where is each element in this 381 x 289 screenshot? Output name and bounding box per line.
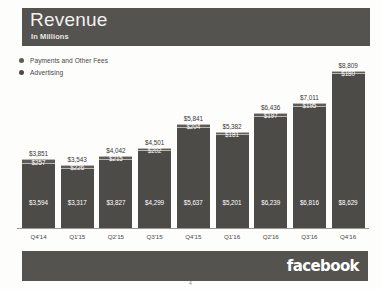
x-axis-tick-label: Q4'16 (326, 233, 371, 240)
footer-banner: facebook (22, 251, 368, 281)
bar-segment-label-payments: $257 (22, 158, 55, 165)
bar-group[interactable]: $8,629$180$8,809Q4'16 (332, 71, 365, 228)
bar-segment-payments[interactable]: $202 (138, 148, 171, 152)
bar-segment-label-advertising: $8,629 (332, 199, 365, 206)
bar-segment-label-advertising: $3,594 (22, 199, 55, 206)
bar-segment-label-advertising: $5,201 (216, 199, 249, 206)
bar-segment-payments[interactable]: $195 (293, 103, 326, 106)
bar-segment-label-advertising: $4,299 (138, 199, 171, 206)
bar-group[interactable]: $3,594$257$3,851Q4'14 (22, 159, 55, 228)
bar-group[interactable]: $6,239$197$6,436Q2'16 (254, 113, 287, 228)
bar-total-label: $5,382 (210, 123, 255, 130)
bar-segment-label-advertising: $6,816 (293, 199, 326, 206)
bar-total-label: $7,011 (287, 94, 332, 101)
bar-segment-label-payments: $195 (293, 101, 326, 108)
bar-segment-label-payments: $181 (216, 130, 249, 137)
slide: Revenue In Millions Payments and Other F… (0, 0, 381, 289)
bar-segment-payments[interactable]: $215 (99, 156, 132, 160)
bar-segment-advertising[interactable]: $3,594 (22, 164, 55, 228)
bar-group[interactable]: $6,816$195$7,011Q3'16 (293, 103, 326, 228)
bar-group[interactable]: $5,201$181$5,382Q1'16 (216, 132, 249, 228)
page-number: 4 (189, 280, 192, 286)
facebook-logo: facebook (287, 257, 359, 275)
bar-total-label: $8,809 (326, 62, 371, 69)
bar-segment-label-payments: $215 (99, 154, 132, 161)
bar-segment-payments[interactable]: $204 (177, 124, 210, 128)
bar-segment-label-payments: $197 (254, 112, 287, 119)
bar-segment-advertising[interactable]: $3,827 (99, 160, 132, 228)
bar-group[interactable]: $3,317$226$3,543Q1'15 (61, 165, 94, 228)
bar-segment-payments[interactable]: $180 (332, 71, 365, 74)
bar-total-label: $6,436 (248, 104, 293, 111)
bar-total-label: $4,501 (132, 139, 177, 146)
x-axis-line (17, 228, 369, 229)
bar-segment-label-advertising: $3,827 (99, 199, 132, 206)
bar-total-label: $3,543 (55, 156, 100, 163)
bar-group[interactable]: $3,827$215$4,042Q2'15 (99, 156, 132, 228)
bar-segment-label-advertising: $3,317 (61, 199, 94, 206)
bar-total-label: $4,042 (93, 147, 138, 154)
bar-segment-advertising[interactable]: $5,637 (177, 128, 210, 228)
bar-segment-label-advertising: $5,637 (177, 199, 210, 206)
bar-segment-advertising[interactable]: $4,299 (138, 151, 171, 228)
bar-segment-advertising[interactable]: $5,201 (216, 135, 249, 228)
bar-segment-label-advertising: $6,239 (254, 199, 287, 206)
bar-segment-advertising[interactable]: $6,816 (293, 107, 326, 228)
bar-segment-payments[interactable]: $226 (61, 165, 94, 169)
bar-group[interactable]: $4,299$202$4,501Q3'15 (138, 148, 171, 228)
bar-segment-label-payments: $180 (332, 69, 365, 76)
bar-segment-payments[interactable]: $257 (22, 159, 55, 164)
bar-total-label: $5,841 (171, 115, 216, 122)
bar-segment-payments[interactable]: $181 (216, 132, 249, 135)
bar-segment-advertising[interactable]: $3,317 (61, 169, 94, 228)
stacked-bar-chart: $3,594$257$3,851Q4'14$3,317$226$3,543Q1'… (0, 0, 381, 289)
bar-segment-label-payments: $204 (177, 122, 210, 129)
bar-segment-label-payments: $226 (61, 163, 94, 170)
bar-segment-advertising[interactable]: $6,239 (254, 117, 287, 228)
bar-segment-label-payments: $202 (138, 146, 171, 153)
bar-group[interactable]: $5,637$204$5,841Q4'15 (177, 124, 210, 228)
bar-segment-advertising[interactable]: $8,629 (332, 74, 365, 228)
bar-segment-payments[interactable]: $197 (254, 113, 287, 117)
